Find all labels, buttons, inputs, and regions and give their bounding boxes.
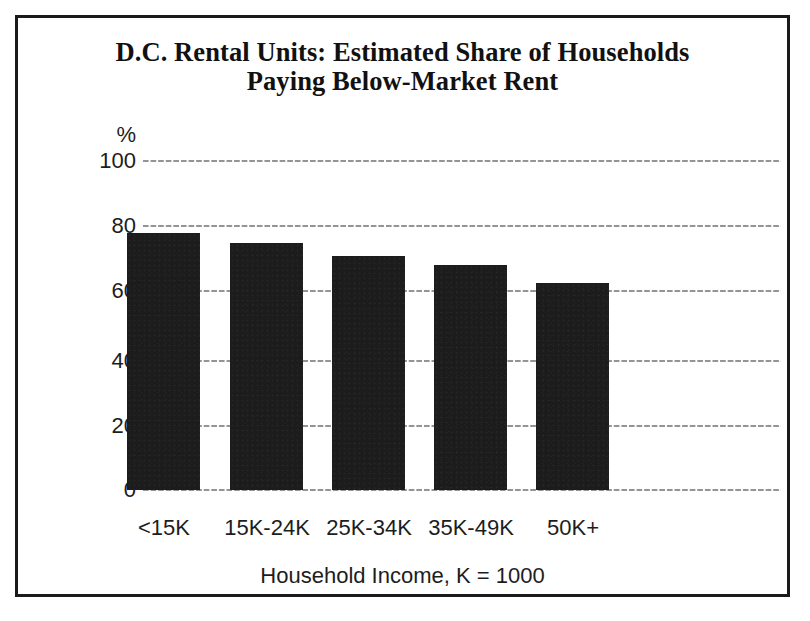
y-tick-label-100: 100: [64, 148, 136, 174]
y-tick-label-80: 80: [64, 213, 136, 239]
y-tick-label-20: 20: [64, 413, 136, 439]
chart-frame: D.C. Rental Units: Estimated Share of Ho…: [15, 15, 790, 597]
y-tick-label-0: 0: [64, 477, 136, 503]
bar-35k-49k: [434, 265, 507, 490]
gridline-80: [142, 225, 781, 228]
bar-lt-15k: [127, 233, 200, 490]
y-tick-label-60: 60: [64, 278, 136, 304]
y-axis-unit-label: %: [80, 122, 136, 148]
x-axis-title: Household Income, K = 1000: [18, 563, 787, 589]
plot-area: % 100 80 60 40 20 0 <15K 15K-24K 25K-34K…: [18, 18, 787, 594]
gridline-100: [142, 160, 781, 163]
y-tick-label-40: 40: [64, 348, 136, 374]
bar-25k-34k: [332, 256, 405, 490]
bar-50k-plus: [536, 283, 609, 490]
bar-15k-24k: [230, 243, 303, 490]
x-tick-label-50k-plus: 50K+: [512, 515, 634, 541]
